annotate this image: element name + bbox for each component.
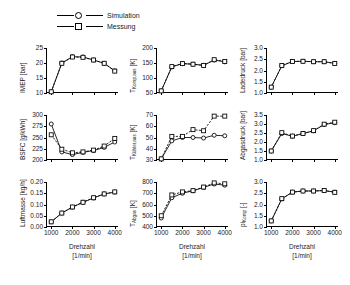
x-tick-label-luftmasse-1: 2000 — [65, 230, 79, 237]
y-tick-label-t-kuehler-aus-4: 70 — [146, 112, 153, 119]
data-point-abgasdruck-messung-1 — [280, 131, 284, 135]
y-axis-label-t-kuehler-aus: TKühler,aus [K] — [130, 125, 137, 160]
series-layer-t-kuehler-aus — [157, 115, 229, 160]
plot-axes-abgasdruck: 1.01.52.02.53.03.5 — [266, 115, 338, 160]
y-tick-abgasdruck-0 — [264, 160, 267, 161]
circle-marker-icon — [75, 12, 82, 19]
y-tick-label-bsfc-4: 300 — [32, 112, 43, 119]
y-tick-label-t-komp-aus-2: 150 — [142, 60, 153, 67]
y-tick-label-abgasdruck-0: 1.0 — [254, 157, 263, 164]
legend-label-messung: Messung — [107, 23, 135, 30]
series-line-pi-komp-simulation — [271, 191, 335, 221]
plot-axes-luftmasse: 0.000.050.100.150.201000200030004000 — [46, 182, 118, 227]
y-tick-ladedruck-0 — [264, 93, 267, 94]
y-tick-luftmasse-0 — [44, 227, 47, 228]
chart-legend: Simulation Messung — [57, 10, 140, 32]
data-point-t-komp-aus-messung-3 — [191, 62, 195, 66]
series-layer-bsfc — [47, 115, 119, 160]
data-point-t-kuehler-aus-messung-3 — [191, 128, 195, 132]
data-point-bsfc-messung-3 — [81, 150, 85, 154]
legend-entry-messung: Messung — [57, 21, 140, 32]
data-point-t-kuehler-aus-simulation-1 — [170, 139, 174, 143]
data-point-imep-messung-0 — [49, 90, 53, 94]
data-point-t-komp-aus-messung-4 — [202, 63, 206, 67]
series-line-luftmasse-simulation — [51, 192, 115, 222]
legend-label-simulation: Simulation — [107, 12, 140, 19]
data-point-t-komp-aus-messung-5 — [212, 58, 216, 62]
plot-axes-pi-komp: 1.01.52.02.53.01000200030004000 — [266, 182, 338, 227]
figure-panel-grid: Simulation Messung IMEP [bar]10152025TKo… — [0, 0, 350, 285]
data-point-t-komp-aus-messung-6 — [223, 60, 227, 64]
data-point-t-kuehler-aus-messung-4 — [202, 129, 206, 133]
y-tick-imep-0 — [44, 93, 47, 94]
plot-axes-imep: 10152025 — [46, 48, 118, 93]
y-tick-label-pi-komp-3: 2.5 — [254, 190, 263, 197]
series-layer-ladedruck — [267, 48, 339, 93]
data-point-t-komp-aus-messung-0 — [159, 89, 163, 93]
data-point-ladedruck-messung-3 — [301, 59, 305, 63]
data-point-t-abgas-messung-5 — [212, 181, 216, 185]
chart-panel-ladedruck: Ladedruck [bar]1.01.52.02.53.0 — [266, 48, 338, 93]
x-tick-label-t-abgas-0: 1000 — [154, 230, 168, 237]
series-layer-luftmasse — [47, 182, 119, 227]
data-point-luftmasse-messung-2 — [70, 205, 74, 209]
legend-swatch-simulation — [57, 10, 103, 21]
plot-axes-t-abgas: 4005006007008001000200030004000 — [156, 182, 228, 227]
data-point-t-kuehler-aus-messung-6 — [223, 114, 227, 118]
data-point-ladedruck-messung-4 — [312, 60, 316, 64]
data-point-luftmasse-messung-5 — [102, 192, 106, 196]
series-layer-pi-komp — [267, 182, 339, 227]
square-marker-icon — [75, 23, 82, 30]
data-point-t-kuehler-aus-simulation-4 — [202, 136, 206, 140]
y-tick-label-bsfc-0: 200 — [32, 157, 43, 164]
chart-panel-abgasdruck: Abgasdruck [bar]1.01.52.02.53.03.5 — [266, 115, 338, 160]
y-tick-label-bsfc-1: 225 — [32, 146, 43, 153]
y-axis-label-pi-komp: piKomp [-] — [240, 202, 247, 227]
y-tick-label-bsfc-2: 250 — [32, 134, 43, 141]
series-layer-abgasdruck — [267, 115, 339, 160]
x-tick-label-luftmasse-2: 3000 — [86, 230, 100, 237]
y-axis-label-luftmasse: Luftmasse [kg/h] — [20, 179, 27, 227]
y-tick-label-t-abgas-0: 400 — [142, 224, 153, 231]
x-axis-title-t-abgas: Drehzahl[1/min] — [156, 243, 228, 261]
y-tick-label-t-kuehler-aus-0: 30 — [146, 157, 153, 164]
y-tick-label-t-kuehler-aus-1: 40 — [146, 146, 153, 153]
data-point-bsfc-messung-6 — [113, 136, 117, 140]
y-tick-label-t-abgas-4: 800 — [142, 179, 153, 186]
y-tick-label-abgasdruck-1: 1.5 — [254, 148, 263, 155]
y-tick-label-ladedruck-3: 2.5 — [254, 56, 263, 63]
x-tick-label-t-abgas-3: 4000 — [218, 230, 232, 237]
data-point-abgasdruck-messung-4 — [312, 129, 316, 133]
data-point-t-abgas-messung-3 — [191, 189, 195, 193]
y-tick-label-luftmasse-0: 0.00 — [30, 224, 43, 231]
data-point-bsfc-messung-5 — [102, 144, 106, 148]
series-layer-t-abgas — [157, 182, 229, 227]
y-tick-label-bsfc-3: 275 — [32, 123, 43, 130]
series-line-luftmasse-messung — [51, 192, 115, 222]
y-tick-label-t-abgas-2: 600 — [142, 201, 153, 208]
data-point-t-abgas-messung-0 — [159, 214, 163, 218]
data-point-bsfc-messung-1 — [60, 147, 64, 151]
series-line-abgasdruck-simulation — [271, 123, 335, 151]
x-axis-title-luftmasse: Drehzahl[1/min] — [46, 243, 118, 261]
data-point-imep-messung-3 — [81, 55, 85, 59]
data-point-t-komp-aus-messung-1 — [170, 65, 174, 69]
data-point-imep-messung-1 — [60, 61, 64, 65]
data-point-luftmasse-messung-1 — [60, 211, 64, 215]
y-tick-label-luftmasse-1: 0.05 — [30, 213, 43, 220]
chart-panel-t-komp-aus: TKomp,aus [K]50100150200 — [156, 48, 228, 93]
legend-swatch-messung — [57, 21, 103, 32]
data-point-bsfc-messung-0 — [49, 133, 53, 137]
data-point-luftmasse-messung-6 — [113, 190, 117, 194]
chart-panel-luftmasse: Luftmasse [kg/h]0.000.050.100.150.201000… — [46, 182, 118, 227]
x-axis-unit-t-abgas: [1/min] — [156, 252, 228, 261]
data-point-abgasdruck-messung-0 — [269, 149, 273, 153]
chart-panel-bsfc: BSFC [g/kWh]200225250275300 — [46, 115, 118, 160]
y-tick-label-pi-komp-1: 1.5 — [254, 213, 263, 220]
data-point-t-kuehler-aus-messung-0 — [159, 157, 163, 161]
data-point-t-kuehler-aus-simulation-5 — [212, 133, 216, 137]
x-axis-unit-luftmasse: [1/min] — [46, 252, 118, 261]
y-tick-label-imep-1: 15 — [36, 75, 43, 82]
data-point-t-komp-aus-messung-2 — [180, 62, 184, 66]
x-axis-label-pi-komp: Drehzahl — [266, 243, 338, 252]
